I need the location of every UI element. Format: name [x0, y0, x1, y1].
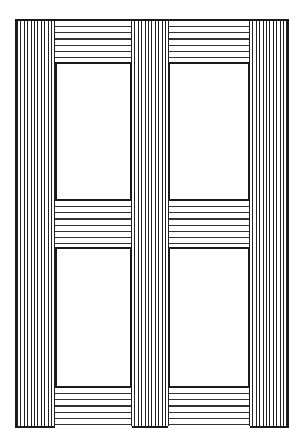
middle-rail-right — [168, 201, 250, 247]
door-frame — [15, 19, 289, 428]
top-rail-left — [55, 21, 132, 62]
panel-top-right — [168, 62, 250, 201]
left-stile — [17, 21, 55, 426]
right-stile — [249, 21, 287, 426]
middle-rail-left — [55, 201, 132, 247]
panel-bottom-right — [168, 247, 250, 388]
top-rail-right — [168, 21, 250, 62]
bottom-rail-left — [55, 388, 132, 428]
panel-bottom-left — [55, 247, 132, 388]
panel-top-left — [55, 62, 132, 201]
center-mullion — [131, 21, 169, 426]
bottom-rail-right — [168, 388, 250, 428]
